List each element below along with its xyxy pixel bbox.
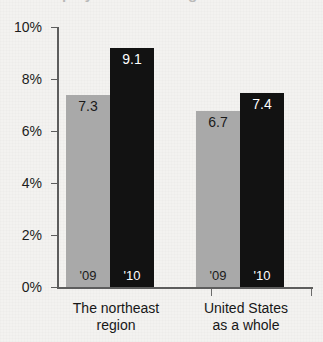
- chart-title-clipped: Unemployment rates higher in the northea…: [0, 0, 323, 11]
- bar-value-us-09: 6.7: [196, 115, 240, 129]
- x-tick-separator-1: [211, 289, 212, 296]
- bar-value-us-10: 7.4: [240, 97, 284, 111]
- bar-value-northeast-09: 7.3: [66, 99, 110, 113]
- y-axis-label-4: 4%: [22, 175, 42, 191]
- group-caption-northeast-line1: The northeast: [73, 300, 159, 316]
- y-axis-label-10: 10%: [14, 19, 42, 35]
- bar-year-us-10: '10: [240, 269, 284, 282]
- y-tick-10: 10%: [51, 27, 57, 28]
- bar-northeast-09[interactable]: 7.3 '09: [66, 95, 110, 287]
- y-axis-label-2: 2%: [22, 227, 42, 243]
- y-axis-line: [57, 27, 59, 289]
- group-caption-us: United States as a whole: [166, 300, 323, 334]
- bar-us-10[interactable]: 7.4 '10: [240, 93, 284, 287]
- y-axis-label-8: 8%: [22, 71, 42, 87]
- y-tick-4: 4%: [51, 183, 57, 184]
- bar-us-09[interactable]: 6.7 '09: [196, 111, 240, 287]
- group-caption-us-line2: as a whole: [166, 317, 323, 334]
- bar-year-northeast-09: '09: [66, 269, 110, 282]
- bar-value-northeast-10: 9.1: [110, 52, 154, 66]
- y-tick-8: 8%: [51, 79, 57, 80]
- group-caption-us-line1: United States: [204, 300, 288, 316]
- y-tick-6: 6%: [51, 131, 57, 132]
- bar-chart: Unemployment rates higher in the northea…: [0, 0, 323, 342]
- y-axis-label-0: 0%: [22, 279, 42, 295]
- bar-northeast-10[interactable]: 9.1 '10: [110, 48, 154, 287]
- plot-area: 0% 2% 4% 6% 8% 10% 7.3 '09 9.1 '10: [57, 27, 313, 289]
- y-tick-2: 2%: [51, 235, 57, 236]
- x-tick-separator-2: [311, 289, 312, 296]
- y-axis-label-6: 6%: [22, 123, 42, 139]
- y-tick-0: 0%: [51, 287, 57, 288]
- chart-title-text: Unemployment rates higher in the northea…: [20, 0, 320, 2]
- bar-year-northeast-10: '10: [110, 269, 154, 282]
- bar-year-us-09: '09: [196, 269, 240, 282]
- x-axis-line: [57, 287, 313, 289]
